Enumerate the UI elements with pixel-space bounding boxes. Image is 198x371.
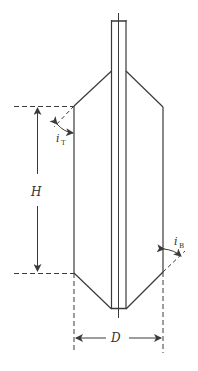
top-angle-subscript: T	[61, 139, 66, 147]
vessel-diagram: H D i T i B	[0, 0, 198, 371]
bottom-angle-indicator	[163, 249, 185, 272]
height-label: H	[30, 185, 42, 199]
bottom-angle-label: i	[174, 235, 178, 248]
top-cone-right	[126, 71, 163, 107]
bottom-angle-subscript: B	[179, 242, 184, 250]
bottom-cone-right	[126, 272, 163, 309]
top-angle-indicator	[54, 106, 74, 133]
height-dimension	[14, 107, 74, 274]
bottom-cone-left	[74, 273, 112, 309]
top-angle-label: i	[56, 132, 60, 145]
top-cone-left	[74, 71, 112, 106]
diameter-label: D	[110, 331, 121, 345]
